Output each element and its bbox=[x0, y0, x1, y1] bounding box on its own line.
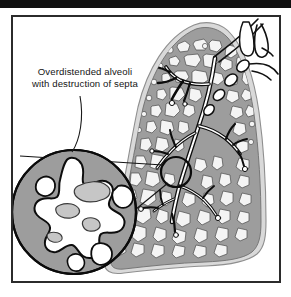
annotation-line-2: with destruction of septa bbox=[20, 78, 150, 90]
top-black-bar bbox=[0, 0, 291, 8]
annotation-line-1: Overdistended alveoli bbox=[20, 66, 150, 78]
figure-frame-border bbox=[11, 15, 281, 283]
annotation-text: Overdistended alveoli with destruction o… bbox=[20, 66, 150, 91]
figure-root: Overdistended alveoli with destruction o… bbox=[0, 0, 291, 297]
